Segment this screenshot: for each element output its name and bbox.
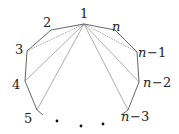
ellipsis-dot <box>56 120 59 123</box>
vertex-label-n-minus-2-suffix: −2 <box>152 75 171 90</box>
edge-4-5 <box>25 81 37 110</box>
vertex-label-n-minus-3: n −3 <box>121 109 149 124</box>
vertex-label-n-minus-2-n: n <box>143 75 151 90</box>
diagonal-1-4 <box>25 24 84 81</box>
diagonal-1-5 <box>37 24 84 110</box>
vertex-label-1: 1 <box>80 6 88 21</box>
ellipsis-dot <box>80 125 83 128</box>
vertex-label-5: 5 <box>24 111 32 126</box>
diagonal-1-n1 <box>84 24 137 52</box>
vertex-label-n-minus-2: n −2 <box>143 75 171 90</box>
vertex-label-n-minus-3-n: n <box>121 109 129 124</box>
polygon-edges-right <box>84 24 139 115</box>
edge-3-4 <box>25 51 27 81</box>
vertex-label-3: 3 <box>15 42 23 57</box>
vertex-label-n-minus-1-n: n <box>138 45 146 60</box>
edge-5-stub <box>37 110 43 115</box>
vertex-label-n: n <box>112 19 120 34</box>
diagonal-1-3 <box>27 24 84 51</box>
vertex-label-n-minus-1-suffix: −1 <box>147 45 166 60</box>
ellipsis-dot <box>102 123 105 126</box>
ellipsis-dots <box>56 120 105 128</box>
vertex-label-n-minus-3-suffix: −3 <box>130 109 149 124</box>
vertex-label-2: 2 <box>43 15 51 30</box>
edge-2-3 <box>27 30 51 51</box>
polygon-fan-diagram: 1 2 3 4 5 n n −1 n −2 n −3 <box>0 0 179 134</box>
vertex-label-n-minus-1: n −1 <box>138 45 166 60</box>
edge-n2-n3 <box>128 82 139 110</box>
vertex-label-4: 4 <box>12 77 20 92</box>
